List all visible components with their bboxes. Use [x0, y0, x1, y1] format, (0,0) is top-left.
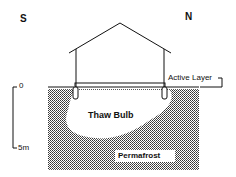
- permafrost-label: Permafrost: [118, 151, 160, 160]
- compass-north: N: [185, 11, 192, 22]
- scale-top-label: 0: [19, 81, 23, 90]
- pile-north: [162, 87, 167, 99]
- house-floor: [75, 83, 165, 87]
- depth-scale-bar: [13, 87, 17, 148]
- active-layer-label: Active Layer: [168, 73, 212, 82]
- house-roof: [69, 23, 171, 53]
- thaw-bulb-label: Thaw Bulb: [88, 110, 134, 120]
- compass-south: S: [20, 13, 27, 24]
- pile-south: [73, 87, 78, 99]
- scale-bottom-label: 5m: [18, 143, 29, 152]
